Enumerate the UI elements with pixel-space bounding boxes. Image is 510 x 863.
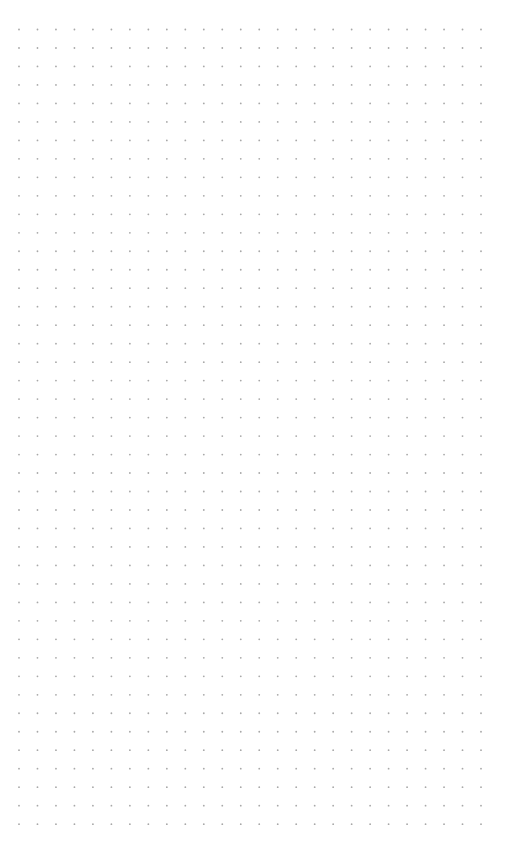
grid-dot <box>74 195 76 197</box>
grid-dot <box>55 675 57 677</box>
grid-dot <box>351 786 353 788</box>
grid-dot <box>480 731 482 733</box>
grid-dot <box>480 565 482 567</box>
grid-dot <box>277 84 279 86</box>
grid-dot <box>55 823 57 825</box>
grid-dot <box>258 435 260 437</box>
grid-dot <box>184 491 186 493</box>
grid-dot <box>258 103 260 105</box>
grid-dot <box>332 565 334 567</box>
grid-dot <box>147 528 149 530</box>
grid-dot <box>406 565 408 567</box>
grid-dot <box>295 213 297 215</box>
grid-dot <box>369 472 371 474</box>
grid-dot <box>332 805 334 807</box>
grid-dot <box>221 232 223 234</box>
grid-dot <box>147 546 149 548</box>
grid-dot <box>388 103 390 105</box>
grid-dot <box>277 139 279 141</box>
grid-dot <box>18 749 20 751</box>
grid-dot <box>240 103 242 105</box>
grid-dot <box>18 786 20 788</box>
grid-dot <box>240 287 242 289</box>
grid-dot <box>425 583 427 585</box>
grid-dot <box>147 472 149 474</box>
grid-dot <box>295 601 297 603</box>
grid-dot <box>443 269 445 271</box>
grid-dot <box>221 84 223 86</box>
grid-dot <box>92 546 94 548</box>
grid-dot <box>277 491 279 493</box>
grid-dot <box>462 176 464 178</box>
grid-dot <box>258 213 260 215</box>
grid-dot <box>18 84 20 86</box>
grid-dot <box>406 805 408 807</box>
grid-dot <box>406 176 408 178</box>
grid-dot <box>37 675 39 677</box>
grid-dot <box>37 583 39 585</box>
grid-dot <box>37 103 39 105</box>
grid-dot <box>166 398 168 400</box>
grid-dot <box>92 749 94 751</box>
grid-dot <box>258 583 260 585</box>
grid-dot <box>37 66 39 68</box>
grid-dot <box>203 491 205 493</box>
grid-dot <box>295 287 297 289</box>
grid-dot <box>18 712 20 714</box>
grid-dot <box>443 472 445 474</box>
grid-dot <box>351 29 353 31</box>
grid-dot <box>369 250 371 252</box>
grid-dot <box>240 583 242 585</box>
grid-dot <box>240 528 242 530</box>
grid-dot <box>351 380 353 382</box>
grid-dot <box>462 232 464 234</box>
grid-dot <box>388 657 390 659</box>
grid-dot <box>18 454 20 456</box>
grid-dot <box>258 250 260 252</box>
grid-dot <box>221 176 223 178</box>
grid-dot <box>388 29 390 31</box>
grid-dot <box>277 454 279 456</box>
grid-dot <box>406 601 408 603</box>
grid-dot <box>369 195 371 197</box>
grid-dot <box>184 805 186 807</box>
grid-dot <box>369 139 371 141</box>
grid-dot <box>314 546 316 548</box>
grid-dot <box>462 768 464 770</box>
grid-dot <box>258 398 260 400</box>
grid-dot <box>314 380 316 382</box>
grid-dot <box>462 509 464 511</box>
grid-dot <box>92 786 94 788</box>
grid-dot <box>203 731 205 733</box>
grid-dot <box>369 583 371 585</box>
grid-dot <box>129 343 131 345</box>
grid-dot <box>314 287 316 289</box>
grid-dot <box>221 121 223 123</box>
grid-dot <box>443 823 445 825</box>
grid-dot <box>462 749 464 751</box>
grid-dot <box>443 176 445 178</box>
grid-dot <box>147 454 149 456</box>
grid-dot <box>166 213 168 215</box>
grid-dot <box>55 324 57 326</box>
grid-dot <box>166 454 168 456</box>
grid-dot <box>369 675 371 677</box>
grid-dot <box>221 565 223 567</box>
grid-dot <box>184 546 186 548</box>
grid-dot <box>277 805 279 807</box>
grid-dot <box>277 786 279 788</box>
grid-dot <box>314 121 316 123</box>
grid-dot <box>111 195 113 197</box>
grid-dot <box>221 287 223 289</box>
grid-dot <box>332 232 334 234</box>
grid-dot <box>480 176 482 178</box>
grid-dot <box>388 84 390 86</box>
grid-dot <box>277 823 279 825</box>
grid-dot <box>18 213 20 215</box>
grid-dot <box>443 398 445 400</box>
grid-dot <box>166 84 168 86</box>
grid-dot <box>314 768 316 770</box>
grid-dot <box>184 66 186 68</box>
grid-dot <box>462 139 464 141</box>
grid-dot <box>184 454 186 456</box>
